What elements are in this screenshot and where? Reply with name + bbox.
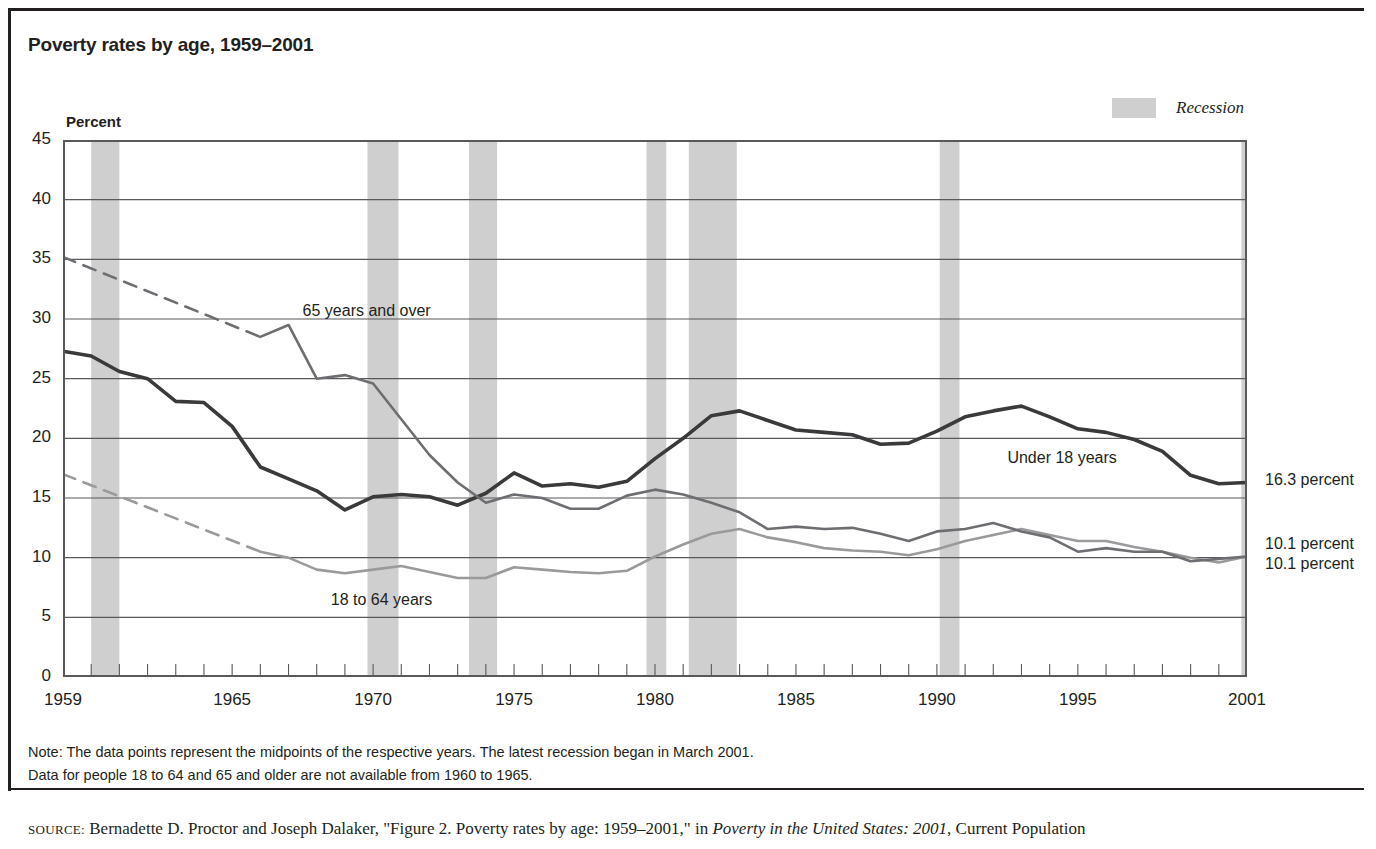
source-text-after: , Current Population: [947, 819, 1085, 838]
y-axis-tick-label: 35: [11, 248, 51, 268]
series-label: 65 years and over: [303, 302, 431, 320]
x-axis-tick-label: 2001: [1207, 690, 1287, 710]
plot-frame: [63, 140, 1247, 677]
frame-top-rule: [8, 8, 1364, 11]
y-axis-tick-label: 25: [11, 368, 51, 388]
plot-area: [63, 140, 1247, 677]
source-text-before: Bernadette D. Proctor and Joseph Dalaker…: [85, 819, 712, 838]
y-axis-tick-label: 20: [11, 427, 51, 447]
y-axis-tick-label: 30: [11, 308, 51, 328]
x-axis-tick-label: 1985: [756, 690, 836, 710]
legend-label-recession: Recession: [1176, 98, 1244, 118]
x-axis-tick-label: 1975: [474, 690, 554, 710]
source-label: SOURCE:: [28, 822, 85, 837]
series-end-label: 16.3 percent: [1265, 471, 1354, 489]
y-axis-tick-label: 40: [11, 189, 51, 209]
series-label: Under 18 years: [1007, 449, 1116, 467]
figure-page: Poverty rates by age, 1959–2001 Recessio…: [0, 0, 1376, 849]
series-label: 18 to 64 years: [331, 591, 432, 609]
note-line-1: Note: The data points represent the midp…: [28, 742, 754, 763]
x-axis-tick-label: 1970: [333, 690, 413, 710]
x-axis-tick-label: 1980: [615, 690, 695, 710]
x-axis-tick-label: 1959: [23, 690, 103, 710]
frame-middle-rule: [8, 788, 1364, 790]
series-end-label: 10.1 percent: [1265, 535, 1354, 553]
source-publication-title: Poverty in the United States: 2001: [712, 819, 947, 838]
y-axis-tick-label: 45: [11, 129, 51, 149]
page-title: Poverty rates by age, 1959–2001: [28, 34, 313, 56]
y-axis-unit-label: Percent: [66, 113, 121, 130]
legend: Recession: [1112, 98, 1244, 118]
y-axis-tick-label: 0: [11, 666, 51, 686]
note-line-2: Data for people 18 to 64 and 65 and olde…: [28, 765, 533, 786]
y-axis-tick-label: 10: [11, 547, 51, 567]
y-axis-tick-label: 5: [11, 606, 51, 626]
source-citation: SOURCE: Bernadette D. Proctor and Joseph…: [28, 819, 1085, 839]
recession-swatch-icon: [1112, 98, 1156, 118]
x-axis-tick-label: 1965: [192, 690, 272, 710]
x-axis-tick-label: 1995: [1038, 690, 1118, 710]
x-axis-tick-label: 1990: [897, 690, 977, 710]
y-axis-tick-label: 15: [11, 487, 51, 507]
series-end-label: 10.1 percent: [1265, 555, 1354, 573]
